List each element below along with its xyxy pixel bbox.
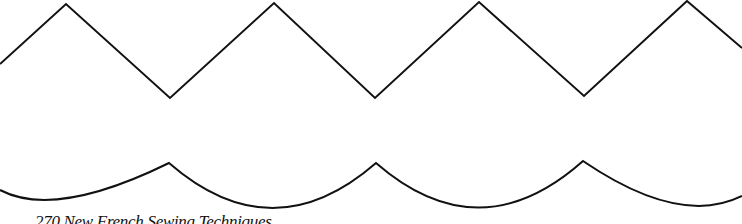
sewing-pattern-template <box>0 0 742 224</box>
scalloped-edge-line <box>0 161 742 208</box>
zigzag-edge-line <box>0 1 742 98</box>
page-footer-title: 270 New French Sewing Techniques <box>35 212 272 224</box>
